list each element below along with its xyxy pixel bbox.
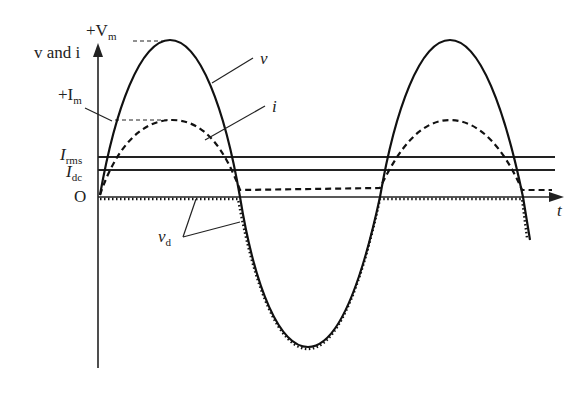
- t-axis-label: t: [557, 202, 562, 219]
- waveform-diagram: +Vm v and i +Im Irms Idc O t v i vd: [0, 0, 587, 394]
- waveform-plot: [0, 0, 587, 394]
- vd-label: vd: [158, 228, 171, 248]
- v-curve: [100, 40, 530, 347]
- origin-label: O: [74, 188, 86, 205]
- idc-label: Idc: [66, 163, 82, 183]
- vd-curve: [100, 199, 527, 349]
- y-axis-arrow-icon: [93, 43, 103, 57]
- v-curve-label: v: [260, 50, 268, 67]
- y-axis-label: v and i: [34, 44, 80, 61]
- vm-label: +Vm: [86, 22, 116, 42]
- im-label: +Im: [58, 86, 82, 106]
- i-curve-label: i: [272, 98, 277, 115]
